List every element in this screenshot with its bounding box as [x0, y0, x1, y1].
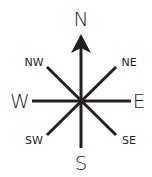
label-northeast: NE: [121, 56, 136, 69]
label-east: E: [133, 89, 146, 113]
label-south: S: [75, 151, 88, 175]
label-southeast: SE: [122, 134, 136, 147]
label-southwest: SW: [25, 134, 43, 147]
label-north: N: [74, 7, 89, 31]
label-northwest: NW: [24, 56, 43, 69]
compass-diagram: N S W E NW NE SW SE: [0, 0, 152, 177]
label-west: W: [10, 89, 30, 113]
compass-rose: N S W E NW NE SW SE: [0, 0, 152, 177]
